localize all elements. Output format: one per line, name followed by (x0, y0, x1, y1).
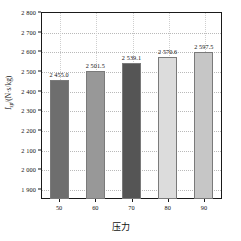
x-tick-label: 70 (128, 204, 134, 211)
x-tick-mark (59, 199, 60, 202)
bar (86, 71, 105, 199)
y-tick-label: 2 100 (21, 146, 36, 153)
x-tick-mark (95, 199, 96, 202)
bar-value-label: 2 539.1 (122, 54, 141, 61)
x-tick-mark (168, 199, 169, 202)
y-tick-label: 2 700 (21, 28, 36, 35)
x-axis-title: 压力 (0, 220, 241, 233)
bar (50, 80, 69, 199)
bar-value-label: 2 501.5 (86, 62, 105, 69)
x-axis: 5060708090 (41, 199, 222, 219)
y-axis-title-subscript: sp (8, 103, 14, 108)
x-tick-label: 80 (165, 204, 171, 211)
y-tick-label: 2 800 (21, 9, 36, 16)
y-tick-label: 2 000 (21, 166, 36, 173)
bar (122, 63, 141, 199)
x-tick-label: 60 (92, 204, 98, 211)
y-axis-title-symbol: I (4, 107, 13, 109)
x-tick-mark (132, 199, 133, 202)
bar-value-label: 2 597.5 (194, 43, 213, 50)
bar-value-label: 2 455.0 (49, 71, 68, 78)
y-axis-title: Isp/(N·s/kg) (4, 58, 14, 128)
y-axis-title-unit: /(N·s/kg) (4, 76, 13, 103)
bar-series: 2 455.02 501.52 539.12 570.62 597.5 (41, 12, 222, 199)
x-tick-mark (204, 199, 205, 202)
y-tick-label: 2 500 (21, 68, 36, 75)
chart-figure: 1 9002 0002 1002 2002 3002 4002 5002 600… (0, 0, 241, 241)
bar-value-label: 2 570.6 (158, 48, 177, 55)
y-tick-label: 1 900 (21, 186, 36, 193)
y-tick-label: 2 600 (21, 48, 36, 55)
bar (158, 57, 177, 199)
bar (194, 52, 213, 199)
y-tick-label: 2 400 (21, 87, 36, 94)
x-tick-label: 90 (201, 204, 207, 211)
y-tick-label: 2 300 (21, 107, 36, 114)
y-tick-label: 2 200 (21, 127, 36, 134)
x-tick-label: 50 (56, 204, 62, 211)
